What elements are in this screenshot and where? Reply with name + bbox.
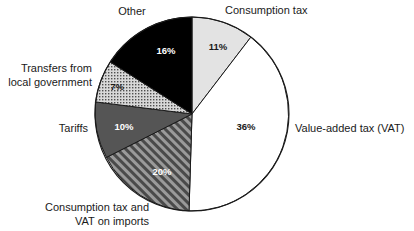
pie-slices	[95, 17, 289, 211]
category-label-vat: Value-added tax (VAT)	[295, 122, 404, 134]
value-label-tariffs: 10%	[114, 121, 134, 132]
value-label-imports: 20%	[152, 166, 172, 177]
category-label-tariffs: Tariffs	[59, 122, 89, 134]
value-label-consumption-tax: 11%	[209, 41, 228, 52]
pie-chart-svg: 11% 36% 20% 10% 7% 16% Consumption tax V…	[0, 0, 414, 231]
category-label-imports-line1: Consumption tax and	[45, 201, 149, 213]
category-label-transfers-line1: Transfers from	[21, 62, 92, 74]
value-label-other: 16%	[156, 45, 176, 56]
category-label-transfers-line2: local government	[8, 76, 92, 88]
category-label-other: Other	[118, 5, 146, 17]
pie-chart: 11% 36% 20% 10% 7% 16% Consumption tax V…	[0, 0, 414, 231]
value-label-transfers: 7%	[110, 81, 124, 92]
value-label-vat: 36%	[236, 121, 256, 132]
category-label-imports-line2: VAT on imports	[75, 215, 149, 227]
category-label-consumption-tax: Consumption tax	[225, 4, 308, 16]
